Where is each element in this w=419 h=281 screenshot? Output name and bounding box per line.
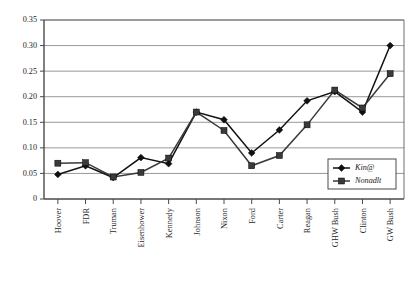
legend-label: Nonadlt [354,176,382,185]
data-point-square [193,109,199,115]
series-line [58,46,390,178]
y-tick-label: 0.15 [23,118,37,127]
x-tick-label: GHW Bush [331,207,340,247]
y-tick-label: 0.05 [23,169,37,178]
x-tick-label: Eisenhower [137,208,146,248]
x-tick-label: Nixon [220,207,229,229]
data-point-square [359,105,365,111]
y-axis-ticks: 00.050.100.150.200.250.300.35 [23,15,44,203]
x-tick-label: Johnson [193,207,202,235]
gridlines [44,20,404,173]
legend-label: Kin@ [354,163,375,172]
x-tick-label: Ford [248,207,257,224]
x-tick-label: Carter [276,208,285,229]
y-tick-label: 0.20 [23,92,37,101]
x-tick-label: Truman [109,207,118,234]
data-point-diamond [387,42,394,49]
x-tick-label: Kennedy [165,207,174,238]
x-tick-label: Clinton [359,207,368,233]
x-tick-label: GW Bush [386,207,395,241]
data-point-square [221,127,227,133]
data-point-square [304,122,310,128]
y-tick-label: 0.35 [23,15,37,24]
y-tick-label: 0 [33,194,37,203]
legend: Kin@Nonadlt [328,159,396,189]
data-point-square [166,155,172,161]
data-point-square [55,160,61,166]
y-tick-label: 0.25 [23,67,37,76]
x-tick-label: Reagan [303,207,312,233]
data-point-diamond [54,171,61,178]
data-point-square [110,174,116,180]
x-tick-label: FDR [82,208,91,225]
data-point-square [332,87,338,93]
data-point-square [387,71,393,77]
data-point-square [276,153,282,159]
chart-container: 00.050.100.150.200.250.300.35HooverFDRTr… [0,0,419,281]
data-point-square [339,178,345,184]
x-axis-ticks: HooverFDRTrumanEisenhowerKennedyJohnsonN… [54,199,395,248]
data-point-square [83,160,89,166]
y-tick-label: 0.10 [23,143,37,152]
line-chart: 00.050.100.150.200.250.300.35HooverFDRTr… [0,0,419,281]
data-point-square [249,163,255,169]
y-tick-label: 0.30 [23,41,37,50]
x-tick-label: Hoover [54,208,63,233]
data-point-diamond [165,160,172,167]
data-point-square [138,169,144,175]
